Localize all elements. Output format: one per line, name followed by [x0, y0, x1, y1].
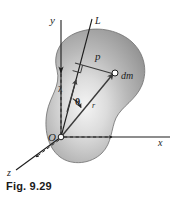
figure-container: y L x z O p dm r θ λ Fig. 9.29 — [0, 0, 176, 203]
label-theta: θ — [75, 96, 80, 107]
label-origin: O — [48, 131, 56, 143]
label-lambda: λ — [58, 84, 63, 94]
mechanics-diagram: y L x z O p dm r θ λ — [0, 0, 176, 203]
label-dm: dm — [121, 70, 133, 81]
figure-caption: Fig. 9.29 — [6, 180, 52, 192]
origin-marker — [58, 134, 64, 140]
label-x-axis: x — [157, 137, 163, 148]
dm-marker — [112, 70, 118, 76]
label-line-L: L — [94, 15, 101, 26]
label-p: p — [94, 50, 101, 62]
label-z-axis: z — [6, 167, 11, 178]
label-y-axis: y — [49, 14, 55, 26]
